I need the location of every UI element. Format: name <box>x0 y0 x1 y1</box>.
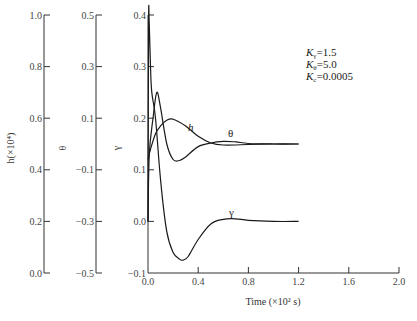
y-tick-label: 0.8 <box>30 61 43 72</box>
y-tick-label: 0.5 <box>82 10 95 21</box>
y-tick-label: 0.3 <box>82 61 95 72</box>
h-axis-label: h(×10⁴) <box>5 133 17 164</box>
y-tick-label: 0.3 <box>134 61 147 72</box>
y-tick-label: 0.4 <box>134 10 147 21</box>
x-axis-ticks: 0.00.40.81.21.62.0 <box>142 267 406 287</box>
y-tick-label: 1.0 <box>30 10 43 21</box>
theta-curve <box>148 92 299 221</box>
x-tick-label: 1.2 <box>292 276 305 287</box>
y-tick-label: 0.4 <box>30 164 43 175</box>
theta-axis-label: θ <box>57 145 68 150</box>
multi-axis-line-chart: 1.00.80.60.40.20.0 h(×10⁴) 0.50.30.1−0.1… <box>0 0 417 321</box>
x-axis-label: Time (×10² s) <box>246 296 301 308</box>
y-tick-label: 0.1 <box>82 113 95 124</box>
h-curve-label: h <box>188 121 194 133</box>
gamma-curve-label: γ <box>228 206 234 218</box>
h-curve <box>148 119 299 160</box>
x-tick-label: 0.8 <box>242 276 255 287</box>
x-tick-label: 0.0 <box>142 276 155 287</box>
y-tick-label: −0.1 <box>76 164 94 175</box>
gamma-curve <box>148 5 299 260</box>
parameter-legend: Kγ=1.5Kθ=5.0Kc=0.0005 <box>305 46 353 84</box>
x-tick-label: 2.0 <box>393 276 406 287</box>
parameter-2: Kc=0.0005 <box>305 70 353 84</box>
theta-curve-label: θ <box>228 127 233 139</box>
y-tick-label: 0.6 <box>30 113 43 124</box>
h-axis: 1.00.80.60.40.20.0 h(×10⁴) <box>5 10 50 279</box>
y-tick-label: 0.0 <box>134 216 147 227</box>
y-tick-label: 0.2 <box>134 113 147 124</box>
y-tick-label: −0.3 <box>76 216 94 227</box>
theta-axis: 0.50.30.1−0.1−0.3−0.5 θ <box>57 10 102 279</box>
y-tick-label: −0.5 <box>76 268 94 279</box>
gamma-axis-label: γ <box>111 145 122 151</box>
y-tick-label: 0.2 <box>30 216 43 227</box>
y-tick-label: 0.0 <box>30 268 43 279</box>
x-tick-label: 1.6 <box>343 276 356 287</box>
y-tick-label: 0.1 <box>134 164 147 175</box>
x-tick-label: 0.4 <box>192 276 205 287</box>
